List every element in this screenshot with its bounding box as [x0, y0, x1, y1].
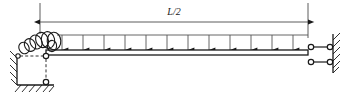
left-beam-pin — [43, 53, 48, 58]
beam-member — [46, 50, 308, 55]
load-arrows — [62, 35, 293, 50]
left-ground-pin — [43, 79, 48, 84]
right-support-group — [308, 33, 340, 73]
right-wall-hatching — [333, 33, 340, 73]
left-ground-hatching — [15, 85, 54, 92]
right-lower-wall-pin — [327, 59, 332, 64]
left-support-group — [10, 51, 54, 92]
left-wall-pin — [16, 54, 20, 58]
diagram-canvas: L/2 — [0, 0, 350, 96]
dimension-group: L/2 — [40, 3, 308, 38]
beam-group — [46, 50, 308, 55]
right-upper-wall-pin — [327, 44, 332, 49]
distributed-load-group — [57, 35, 308, 50]
right-lower-beam-pin — [308, 59, 313, 64]
beam-diagram-figure: L/2 — [0, 0, 350, 96]
dimension-label: L/2 — [166, 6, 180, 17]
right-upper-beam-pin — [308, 44, 313, 49]
